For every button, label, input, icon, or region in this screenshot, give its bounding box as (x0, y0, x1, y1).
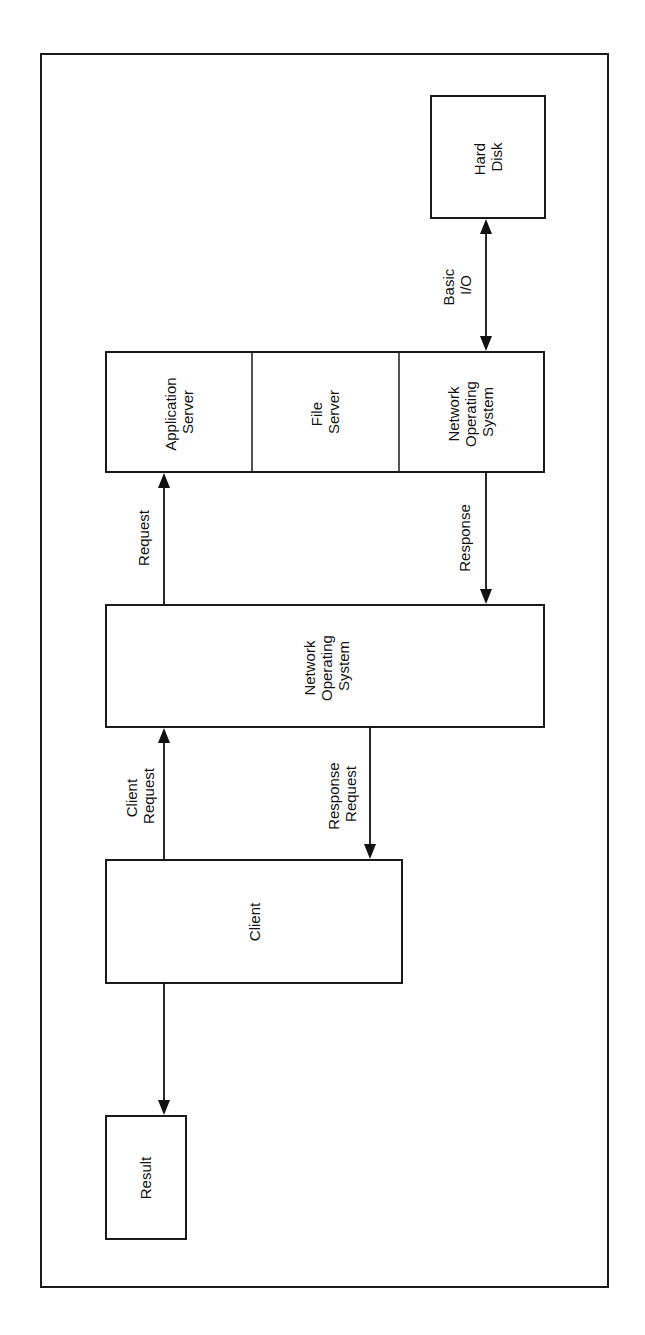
node-middle-nos: Network Operating System (106, 605, 544, 727)
request-label: Request (135, 509, 152, 566)
node-server-stack: Application Server File Server Network O… (106, 352, 544, 472)
edge-client-request: Client Request (123, 728, 170, 860)
arrowhead-down-icon (480, 336, 492, 351)
arrowhead-up-icon (480, 219, 492, 234)
node-client: Client (106, 860, 402, 983)
basic-io-label: Basic I/O (440, 265, 474, 306)
edge-request: Request (135, 473, 170, 605)
arrowhead-down-icon (364, 844, 376, 859)
result-label: Result (137, 1156, 154, 1199)
arrowhead-up-icon (158, 473, 170, 488)
arrowhead-down-icon (158, 1100, 170, 1115)
server-nos-label: Network Operating System (445, 377, 496, 447)
node-result: Result (106, 1116, 186, 1239)
arrowhead-down-icon (480, 589, 492, 604)
diagram-canvas: Hard Disk Basic I/O Application Server F… (0, 0, 645, 1335)
edge-client-result (158, 983, 170, 1115)
hard-disk-label: Hard Disk (471, 139, 505, 176)
edge-response: Response (456, 472, 492, 604)
response-request-label: Response Request (325, 758, 359, 830)
middle-nos-label: Network Operating System (301, 631, 352, 701)
edge-response-request: Response Request (325, 727, 376, 859)
client-label: Client (246, 902, 263, 941)
response-label: Response (456, 504, 473, 572)
client-request-label: Client Request (123, 767, 157, 824)
edge-basic-io: Basic I/O (440, 219, 492, 351)
arrowhead-up-icon (158, 728, 170, 743)
node-hard-disk: Hard Disk (431, 96, 545, 218)
